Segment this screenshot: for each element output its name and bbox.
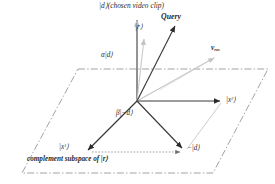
label-v-res-subscript: res — [214, 47, 220, 52]
label-x1-ket: ⟩ — [66, 143, 69, 151]
label-x2-ket: ⟩ — [233, 96, 236, 104]
query-vector — [137, 26, 175, 101]
negd-to-x2-edge — [187, 103, 221, 149]
label-x2: |x2⟩ — [226, 97, 236, 104]
label-r-vector: |r⟩ — [135, 24, 143, 31]
beta-neg-d-vector — [137, 101, 182, 148]
label-neg-d: −|d⟩ — [187, 145, 200, 152]
r-vector — [137, 39, 144, 101]
label-v-res: vres — [211, 44, 220, 52]
label-complement-subspace: complement subspace of |r⟩ — [27, 156, 108, 163]
label-query: Query — [161, 13, 181, 21]
label-beta-neg-d: β|−d⟩ — [116, 110, 133, 117]
vector-space-diagram: |d⟩(chosen video clip) Query |r⟩ α|d⟩ vr… — [0, 0, 275, 184]
v-res-vector — [137, 58, 214, 101]
label-x1: |x1⟩ — [59, 144, 69, 151]
label-alpha-d: α|d⟩ — [101, 52, 113, 59]
label-d-chosen-video-clip: |d⟩(chosen video clip) — [99, 2, 164, 9]
